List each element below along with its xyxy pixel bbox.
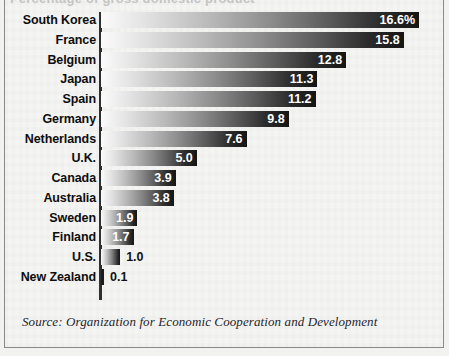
bar-value-label: 11.2 [288,91,312,107]
bar-category-label: New Zealand [0,269,96,285]
bar-track: 12.8 [101,52,419,68]
bar-value-label: 11.3 [290,71,314,87]
bar-track: 1.7 [101,229,419,245]
bar-category-label: Sweden [0,210,96,226]
clipped-title-text: Percentage of gross domestic product [10,0,430,6]
bar: 1.7 [101,229,134,245]
bar-track: 15.8 [101,32,419,48]
bar-row: France15.8 [0,32,440,52]
bar-row: Australia3.8 [0,190,440,210]
bar-value-label: 16.6% [380,12,415,28]
bar-track: 11.3 [101,71,419,87]
bar-track: 0.1 [101,269,419,285]
bar-value-label: 12.8 [318,52,342,68]
bar-row: U.S.1.0 [0,249,440,269]
bar: 7.6 [101,131,247,147]
clipped-title: Percentage of gross domestic product [10,0,430,9]
bar [101,269,104,285]
bar-row: Finland1.7 [0,229,440,249]
bar-row: Netherlands7.6 [0,131,440,151]
source-note: Source: Organization for Economic Cooper… [22,314,426,330]
bar-track: 1.9 [101,210,419,226]
bar-row: Sweden1.9 [0,210,440,230]
bar-row: Canada3.9 [0,170,440,190]
bar-value-label: 1.9 [116,210,133,226]
bar: 3.9 [101,170,176,186]
bar-value-label: 1.7 [112,229,129,245]
bar: 16.6% [101,12,419,28]
bar-row: U.K.5.0 [0,150,440,170]
bar-row: South Korea16.6% [0,12,440,32]
bar-category-label: Finland [0,229,96,245]
bar-category-label: Belgium [0,52,96,68]
bar-track: 5.0 [101,150,419,166]
bar-track: 9.8 [101,111,419,127]
bar: 9.8 [101,111,289,127]
bar-value-label: 3.8 [152,190,169,206]
bar: 5.0 [101,150,197,166]
bar-track: 3.9 [101,170,419,186]
bar-category-label: South Korea [0,12,96,28]
chart-figure: Percentage of gross domestic product Sou… [0,0,449,356]
bar: 3.8 [101,190,174,206]
bar-category-label: Japan [0,71,96,87]
bar: 12.8 [101,52,346,68]
bar-track: 11.2 [101,91,419,107]
bar-value-label: 7.6 [225,131,242,147]
bar-category-label: Germany [0,111,96,127]
bar-category-label: Netherlands [0,131,96,147]
bar-row: Japan11.3 [0,71,440,91]
bar-track: 3.8 [101,190,419,206]
bar-row: Belgium12.8 [0,52,440,72]
bar: 11.3 [101,71,317,87]
bar-category-label: Australia [0,190,96,206]
bar-category-label: Spain [0,91,96,107]
bar-value-label: 0.1 [110,269,127,285]
bar-track: 16.6% [101,12,419,28]
bar-value-label: 9.8 [267,111,284,127]
bar-track: 7.6 [101,131,419,147]
bar-row: Spain11.2 [0,91,440,111]
bar-row: Germany9.8 [0,111,440,131]
bar: 11.2 [101,91,316,107]
bar-chart-plot: South Korea16.6%France15.8Belgium12.8Jap… [0,12,440,304]
bar-value-label: 1.0 [126,249,143,265]
bar: 1.9 [101,210,137,226]
bar-category-label: U.K. [0,150,96,166]
bar-value-label: 3.9 [154,170,171,186]
bar-category-label: Canada [0,170,96,186]
bar-value-label: 15.8 [375,32,399,48]
bar-category-label: U.S. [0,249,96,265]
bar-value-label: 5.0 [175,150,192,166]
bar-row: New Zealand0.1 [0,269,440,289]
bar-track: 1.0 [101,249,419,265]
bar: 15.8 [101,32,404,48]
bar-category-label: France [0,32,96,48]
bar [101,249,120,265]
